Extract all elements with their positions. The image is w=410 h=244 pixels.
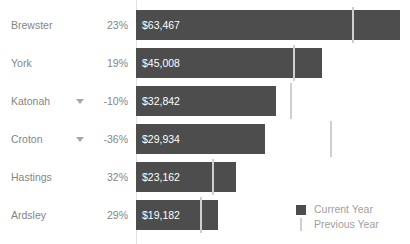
previous-year-marker (330, 121, 332, 157)
previous-year-marker (293, 45, 295, 81)
chart-row: Croton-36%$29,934 (0, 124, 410, 154)
bullet-bar-chart: Brewster23%$63,467York19%$45,008Katonah-… (0, 0, 410, 244)
legend-line-swatch-icon (300, 218, 302, 231)
previous-year-marker (200, 197, 202, 233)
chart-row: Hastings32%$23,162 (0, 162, 410, 192)
category-label: Katonah (11, 86, 50, 116)
previous-year-marker (212, 159, 214, 195)
bar-value-label: $63,467 (136, 10, 180, 40)
bar-value-label: $32,842 (136, 86, 180, 116)
bar-value-label: $29,934 (136, 124, 180, 154)
category-label: Hastings (11, 162, 52, 192)
category-label: York (11, 48, 32, 78)
chart-row: York19%$45,008 (0, 48, 410, 78)
category-label: Croton (11, 124, 43, 154)
chart-row: Katonah-10%$32,842 (0, 86, 410, 116)
percent-change-label: 19% (60, 48, 128, 78)
percent-change-label: 29% (60, 200, 128, 230)
previous-year-marker (352, 7, 354, 43)
bar-value-label: $45,008 (136, 48, 180, 78)
legend-label-current-year: Current Year (314, 202, 373, 217)
percent-change-label: 23% (60, 10, 128, 40)
legend-label-previous-year: Previous Year (314, 217, 379, 232)
bar-value-label: $23,162 (136, 162, 180, 192)
percent-change-label: 32% (60, 162, 128, 192)
category-label: Brewster (11, 10, 52, 40)
legend-square-swatch-icon (296, 205, 306, 215)
chart-row: Brewster23%$63,467 (0, 10, 410, 40)
percent-change-label: -36% (60, 124, 128, 154)
category-label: Ardsley (11, 200, 46, 230)
bar-value-label: $19,182 (136, 200, 180, 230)
previous-year-marker (290, 83, 292, 119)
percent-change-label: -10% (60, 86, 128, 116)
